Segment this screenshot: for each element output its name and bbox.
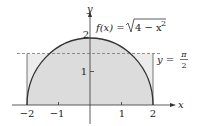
curve-label-lhs: f(x) = bbox=[95, 22, 125, 33]
x-axis-label: x bbox=[178, 99, 184, 110]
line-label-lhs: y = bbox=[156, 54, 174, 65]
x-axis-arrow-icon bbox=[170, 103, 176, 107]
y-tick-label: 2 bbox=[83, 29, 89, 40]
x-tick-label: −1 bbox=[50, 108, 65, 119]
x-tick-label: 1 bbox=[119, 108, 125, 119]
svg-text:f(x) =: f(x) = bbox=[95, 22, 125, 33]
curve-label-exponent: 2 bbox=[161, 19, 166, 28]
x-tick-label: −2 bbox=[20, 108, 35, 119]
line-label-denominator: 2 bbox=[181, 61, 186, 70]
y-tick-label: 1 bbox=[81, 66, 87, 77]
line-label-numerator: π bbox=[180, 50, 187, 59]
line-label: y = π 2 bbox=[156, 50, 188, 70]
y-axis-label: y bbox=[86, 3, 93, 14]
x-tick-label: 2 bbox=[150, 108, 156, 119]
curve-label-body: 4 − x bbox=[135, 22, 162, 33]
figure: x y −2 −1 1 2 1 2 f(x) = 4 − x 2 y = π 2 bbox=[0, 0, 197, 126]
curve-label: f(x) = 4 − x 2 bbox=[95, 19, 166, 33]
